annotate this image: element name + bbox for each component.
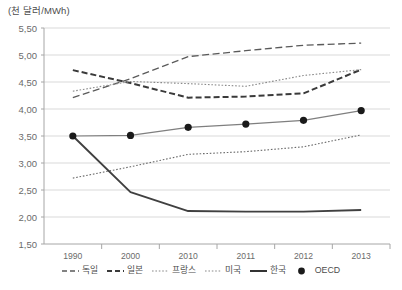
legend-swatch-icon (62, 266, 79, 275)
legend-swatch-icon (295, 266, 312, 275)
x-tick-label: 2013 (352, 251, 371, 261)
legend-item-label: 프랑스 (172, 266, 196, 275)
legend-swatch-icon (107, 266, 124, 275)
legend-swatch-icon (152, 266, 169, 275)
x-tick-label: 1990 (63, 251, 82, 261)
legend-swatch-icon (205, 266, 222, 275)
y-tick-label: 3,50 (19, 131, 38, 142)
legend-item-OECD[interactable]: OECD (295, 266, 340, 275)
legend-item-독일[interactable]: 독일 (62, 266, 98, 275)
y-tick-label: 2,50 (19, 185, 38, 196)
legend-item-label: OECD (315, 266, 340, 275)
gridlines (44, 28, 390, 217)
series-line-한국 (73, 136, 361, 212)
y-tick-label: 2,00 (19, 212, 38, 223)
legend-item-미국[interactable]: 미국 (205, 266, 241, 275)
y-tick-label: 4,50 (19, 77, 38, 88)
legend-item-label: 독일 (82, 266, 98, 275)
series-marker-OECD (69, 132, 76, 139)
legend-item-label: 일본 (127, 266, 143, 275)
x-tick-label: 2010 (179, 251, 198, 261)
x-tick-label: 2000 (121, 251, 140, 261)
y-axis-tick-labels: 1,502,002,503,003,504,004,505,005,50 (19, 23, 38, 250)
series-line-프랑스 (73, 70, 361, 92)
legend-item-label: 한국 (270, 266, 286, 275)
series-marker-OECD (300, 117, 307, 124)
series-marker-OECD (185, 124, 192, 131)
data-series-group (73, 43, 361, 211)
legend-item-한국[interactable]: 한국 (250, 266, 286, 275)
y-tick-label: 4,00 (19, 104, 38, 115)
legend-item-일본[interactable]: 일본 (107, 266, 143, 275)
legend-swatch-icon (250, 266, 267, 275)
y-tick-label: 5,50 (19, 23, 38, 34)
data-marker-group (69, 107, 365, 140)
legend-item-label: 미국 (225, 266, 241, 275)
legend-item-프랑스[interactable]: 프랑스 (152, 266, 196, 275)
series-line-독일 (73, 43, 361, 98)
series-marker-OECD (127, 132, 134, 139)
y-tick-label: 1,50 (19, 239, 38, 250)
x-axis-tick-marks (102, 244, 390, 249)
y-tick-label: 5,00 (19, 50, 38, 61)
line-chart: (천 달러/MWh) 1,502,002,503,003,504,004,505… (0, 0, 402, 290)
plot-area: 1,502,002,503,003,504,004,505,005,50 199… (0, 0, 402, 290)
series-marker-OECD (358, 107, 365, 114)
x-tick-label: 2012 (294, 251, 313, 261)
chart-legend: 독일일본프랑스미국한국OECD (0, 266, 402, 275)
series-line-미국 (73, 135, 361, 178)
series-line-OECD (73, 111, 361, 136)
x-tick-label: 2011 (237, 251, 256, 261)
y-tick-label: 3,00 (19, 158, 38, 169)
x-axis-tick-labels: 199020002010201120122013 (63, 251, 371, 261)
series-marker-OECD (242, 121, 249, 128)
